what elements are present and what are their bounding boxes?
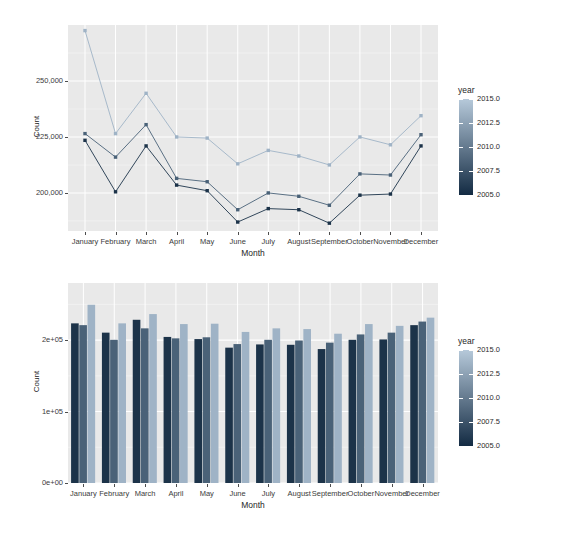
y-tick-mark [65,483,68,484]
x-tick-mark [207,232,208,235]
x-tick-mark [299,232,300,235]
legend-tick-mark [469,99,473,100]
bar [287,345,295,483]
legend-tick-mark [469,195,473,196]
data-point [358,172,361,175]
bar [418,322,426,483]
data-point [205,189,208,192]
line-series-2005 [85,140,421,223]
bar [365,324,373,483]
data-point [144,123,147,126]
y-tick-label: 225,000 [32,132,63,141]
legend-tick-mark [459,147,463,148]
data-point [175,177,178,180]
line-series-2015 [85,31,421,165]
data-point [83,139,86,142]
bar [233,344,241,483]
bar [88,305,96,483]
bar [334,334,342,483]
legend-tick-label: 2010.0 [477,393,500,402]
legend-tick-mark [459,398,463,399]
data-point [144,144,147,147]
y-tick-label: 1e+05 [32,407,63,416]
data-point [175,135,178,138]
bar-chart-y-axis-title: Count [32,352,41,412]
bar-chart-x-axis-title: Month [68,500,438,510]
data-point [114,132,117,135]
bar [357,334,365,483]
x-tick-mark [421,232,422,235]
legend-tick-label: 2007.5 [477,166,500,175]
bar [273,328,281,483]
legend-tick-mark [469,398,473,399]
data-point [267,149,270,152]
data-point [205,136,208,139]
legend-tick-mark [469,147,473,148]
data-point [297,208,300,211]
data-point [358,193,361,196]
legend-tick-mark [469,422,473,423]
line-chart-legend-title: year [458,85,475,95]
line-chart-series-svg [68,25,438,231]
y-tick-label: 0e+00 [32,478,63,487]
data-point [389,192,392,195]
x-tick-mark [207,484,208,487]
x-tick-mark [329,232,330,235]
line-chart-x-axis-title: Month [68,248,438,258]
x-tick-mark [238,484,239,487]
legend-tick-mark [469,446,473,447]
legend-tick-mark [469,123,473,124]
data-point [236,162,239,165]
legend-tick-label: 2012.5 [477,118,500,127]
bar [149,314,157,483]
data-point [114,190,117,193]
data-point [328,163,331,166]
legend-tick-mark [459,422,463,423]
data-point [236,208,239,211]
legend-tick-mark [459,123,463,124]
data-point [83,132,86,135]
legend-tick-mark [459,350,463,351]
legend-tick-mark [459,171,463,172]
data-point [297,154,300,157]
bar [164,337,172,483]
bar [318,349,326,483]
legend-tick-mark [459,374,463,375]
x-tick-mark [116,232,117,235]
data-point [236,220,239,223]
bar [427,318,435,483]
bar [180,324,188,483]
y-tick-label: 2e+05 [32,335,63,344]
x-tick-mark [423,484,424,487]
data-point [297,195,300,198]
bar [211,324,219,483]
line-chart-y-axis-title: Count [32,97,41,157]
x-tick-mark [145,484,146,487]
legend-tick-mark [459,99,463,100]
x-tick-mark [83,484,84,487]
data-point [419,144,422,147]
data-point [389,173,392,176]
x-tick-mark [268,484,269,487]
x-tick-mark [176,484,177,487]
x-tick-label: December [395,237,447,246]
legend-tick-label: 2012.5 [477,369,500,378]
data-point [267,191,270,194]
x-tick-mark [360,232,361,235]
line-chart-plot-panel [68,25,438,231]
bar [264,340,272,483]
data-point [175,183,178,186]
data-point [419,133,422,136]
bar [225,348,233,483]
legend-tick-label: 2015.0 [477,345,500,354]
bar-chart-series-svg [68,283,438,483]
x-tick-mark [85,232,86,235]
x-tick-mark [177,232,178,235]
x-tick-mark [299,484,300,487]
legend-tick-label: 2007.5 [477,417,500,426]
bar [256,344,264,483]
bar [110,340,118,483]
data-point [328,221,331,224]
bar [396,326,404,483]
bar [410,325,418,483]
